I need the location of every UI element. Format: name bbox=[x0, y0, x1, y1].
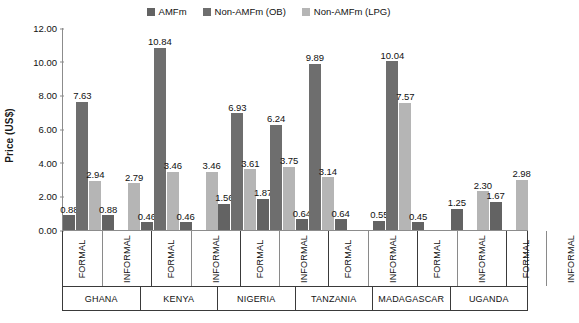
sector-bar-group: 0.45 bbox=[412, 28, 451, 230]
bar[interactable]: 0.46 bbox=[141, 222, 153, 230]
sector-bar-group: 1.252.30 bbox=[451, 28, 490, 230]
legend-item[interactable]: Non-AMFm (OB) bbox=[203, 6, 286, 17]
bar-value-label: 0.45 bbox=[409, 212, 428, 222]
y-axis-tick-label: 4.00 bbox=[39, 157, 64, 168]
legend-swatch-icon bbox=[203, 8, 211, 16]
bar[interactable]: 0.64 bbox=[335, 219, 347, 230]
sector-axis-label: INFORMAL bbox=[458, 231, 507, 286]
sector-bar-group: 1.672.98 bbox=[489, 28, 528, 230]
bar[interactable]: 0.88 bbox=[63, 215, 75, 230]
bar[interactable]: 2.79 bbox=[128, 183, 140, 230]
bar-rect bbox=[154, 48, 166, 230]
bar[interactable]: 6.24 bbox=[270, 125, 282, 230]
y-axis-tick-label: 10.00 bbox=[33, 56, 63, 67]
bar-rect bbox=[309, 64, 321, 230]
sector-axis-label-text: INFORMAL bbox=[299, 234, 309, 282]
sector-axis-label: FORMAL bbox=[241, 231, 281, 286]
sector-axis-label: INFORMAL bbox=[369, 231, 418, 286]
sector-axis-label: INFORMAL bbox=[280, 231, 329, 286]
legend-label: AMFm bbox=[159, 6, 187, 17]
y-axis-tick-label: 12.00 bbox=[33, 23, 63, 34]
bar-value-label: 1.25 bbox=[448, 198, 467, 208]
country-axis-label: GHANA bbox=[63, 287, 141, 310]
sector-axis-label: INFORMAL bbox=[547, 231, 579, 286]
sector-axis-label: FORMAL bbox=[329, 231, 369, 286]
bar[interactable]: 7.63 bbox=[76, 102, 88, 230]
bar-rect bbox=[180, 222, 192, 230]
country-axis: GHANAKENYANIGERIATANZANIAMADAGASCARUGAND… bbox=[62, 287, 528, 311]
sector-axis-label-text: INFORMAL bbox=[388, 234, 398, 282]
bar[interactable]: 0.88 bbox=[102, 215, 114, 230]
sector-bar-group: 0.64 bbox=[334, 28, 373, 230]
country-axis-label: TANZANIA bbox=[296, 287, 374, 310]
country-group: 0.649.893.140.64 bbox=[296, 28, 374, 230]
bar-value-label: 10.84 bbox=[148, 37, 172, 47]
bar-value-label: 0.46 bbox=[176, 212, 195, 222]
sector-axis-label: FORMAL bbox=[152, 231, 192, 286]
bar-rect bbox=[218, 204, 230, 230]
bar-groups: 0.887.632.940.882.790.4610.843.460.463.4… bbox=[63, 28, 528, 230]
country-group: 0.4610.843.460.463.46 bbox=[141, 28, 219, 230]
bar[interactable]: 10.84 bbox=[154, 48, 166, 230]
bar-rect bbox=[283, 167, 295, 230]
chart-legend: AMFmNon-AMFm (OB)Non-AMFm (LPG) bbox=[0, 6, 537, 17]
bar[interactable]: 3.61 bbox=[244, 169, 256, 230]
bar[interactable]: 3.14 bbox=[322, 177, 334, 230]
bar-rect bbox=[244, 169, 256, 230]
country-axis-label: MADAGASCAR bbox=[373, 287, 451, 310]
sector-axis-label-text: FORMAL bbox=[433, 239, 443, 278]
bar-rect bbox=[63, 215, 75, 230]
sector-axis-label-text: INFORMAL bbox=[566, 234, 576, 282]
bar-value-label: 0.64 bbox=[331, 209, 350, 219]
y-axis-tick-label: 2.00 bbox=[39, 191, 64, 202]
sector-bar-group: 0.463.46 bbox=[179, 28, 218, 230]
y-axis-title-text: Price (US$) bbox=[4, 108, 15, 162]
sector-bar-group: 1.566.933.61 bbox=[218, 28, 257, 230]
plot-area: 12.0010.008.006.004.002.000.00 0.887.632… bbox=[62, 28, 528, 231]
bar[interactable]: 1.56 bbox=[218, 204, 230, 230]
bar-rect bbox=[141, 222, 153, 230]
bar[interactable]: 0.46 bbox=[180, 222, 192, 230]
bar-value-label: 2.98 bbox=[512, 169, 531, 179]
legend-item[interactable]: Non-AMFm (LPG) bbox=[302, 6, 391, 17]
legend-label: Non-AMFm (OB) bbox=[215, 6, 286, 17]
legend-item[interactable]: AMFm bbox=[147, 6, 187, 17]
legend-swatch-icon bbox=[302, 8, 310, 16]
bar[interactable]: 0.55 bbox=[373, 221, 385, 230]
bar-rect bbox=[451, 209, 463, 230]
bar[interactable]: 1.67 bbox=[490, 202, 502, 230]
bar[interactable]: 2.98 bbox=[516, 180, 528, 230]
sector-axis-label-text: INFORMAL bbox=[477, 234, 487, 282]
bar[interactable]: 3.75 bbox=[283, 167, 295, 230]
bar[interactable]: 6.93 bbox=[231, 113, 243, 230]
y-axis-title: Price (US$) bbox=[2, 50, 16, 220]
bar[interactable]: 9.89 bbox=[309, 64, 321, 230]
bar-rect bbox=[231, 113, 243, 230]
sector-axis-label: INFORMAL bbox=[103, 231, 152, 286]
bar[interactable]: 0.64 bbox=[296, 219, 308, 230]
sector-bar-group: 1.876.243.75 bbox=[257, 28, 296, 230]
bar-value-label: 9.89 bbox=[306, 53, 325, 63]
bar-rect bbox=[257, 199, 269, 230]
bar-rect bbox=[412, 222, 424, 230]
bar-value-label: 6.24 bbox=[267, 114, 286, 124]
bar-rect bbox=[322, 177, 334, 230]
bar-rect bbox=[102, 215, 114, 230]
sector-axis-label: INFORMAL bbox=[192, 231, 241, 286]
bar-rect bbox=[386, 61, 398, 230]
legend-swatch-icon bbox=[147, 8, 155, 16]
sector-bar-group: 0.887.632.94 bbox=[63, 28, 102, 230]
bar-rect bbox=[490, 202, 502, 230]
sector-axis-label: FORMAL bbox=[63, 231, 103, 286]
country-group: 1.252.301.672.98 bbox=[451, 28, 529, 230]
bar[interactable]: 1.87 bbox=[257, 199, 269, 230]
country-group: 1.566.933.611.876.243.75 bbox=[218, 28, 296, 230]
bar[interactable]: 0.45 bbox=[412, 222, 424, 230]
bar-rect bbox=[128, 183, 140, 230]
sector-axis-label-text: FORMAL bbox=[255, 239, 265, 278]
sector-axis-label: FORMAL bbox=[418, 231, 458, 286]
bar[interactable]: 10.04 bbox=[386, 61, 398, 230]
bar[interactable]: 1.25 bbox=[451, 209, 463, 230]
sector-axis: FORMALINFORMALFORMALINFORMALFORMALINFORM… bbox=[62, 231, 528, 287]
bar-value-label: 7.63 bbox=[73, 91, 92, 101]
